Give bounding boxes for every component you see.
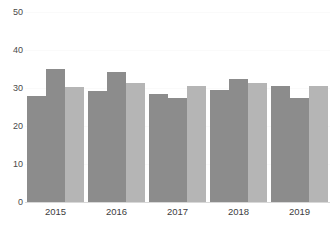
bar-group-2017 bbox=[147, 12, 208, 202]
bar-2018-series-2[interactable] bbox=[229, 79, 248, 202]
bar-2019-series-3[interactable] bbox=[309, 86, 328, 202]
y-tick-label-40: 40 bbox=[1, 46, 23, 55]
x-tick-label-2016: 2016 bbox=[86, 205, 147, 223]
bar-group-2019 bbox=[269, 12, 330, 202]
bar-group-2015 bbox=[25, 12, 86, 202]
bar-2019-series-2[interactable] bbox=[290, 98, 309, 203]
bar-2017-series-3[interactable] bbox=[187, 86, 206, 202]
bar-2015-series-1[interactable] bbox=[27, 96, 46, 202]
x-tick-label-2019: 2019 bbox=[269, 205, 330, 223]
bar-2015-series-2[interactable] bbox=[46, 69, 65, 202]
bar-group-2016 bbox=[86, 12, 147, 202]
bar-chart: 50 40 30 20 10 0 bbox=[0, 0, 335, 237]
y-tick-label-30: 30 bbox=[1, 84, 23, 93]
x-tick-label-2017: 2017 bbox=[147, 205, 208, 223]
bar-2018-series-3[interactable] bbox=[248, 83, 267, 202]
bar-2016-series-3[interactable] bbox=[126, 83, 145, 202]
bar-groups bbox=[25, 12, 330, 202]
bar-2017-series-2[interactable] bbox=[168, 98, 187, 202]
bar-2016-series-1[interactable] bbox=[88, 91, 107, 202]
bar-group-2018 bbox=[208, 12, 269, 202]
bar-2016-series-2[interactable] bbox=[107, 72, 126, 202]
bar-2019-series-1[interactable] bbox=[271, 86, 290, 202]
x-tick-label-2015: 2015 bbox=[25, 205, 86, 223]
bar-2015-series-3[interactable] bbox=[65, 87, 84, 202]
y-tick-label-0: 0 bbox=[1, 198, 23, 207]
y-axis: 50 40 30 20 10 0 bbox=[0, 0, 23, 237]
y-tick-label-10: 10 bbox=[1, 160, 23, 169]
y-tick-label-50: 50 bbox=[1, 8, 23, 17]
bar-2017-series-1[interactable] bbox=[149, 94, 168, 202]
bar-2018-series-1[interactable] bbox=[210, 90, 229, 202]
x-axis: 2015 2016 2017 2018 2019 bbox=[25, 205, 330, 223]
x-axis-line bbox=[25, 202, 330, 203]
y-tick-label-20: 20 bbox=[1, 122, 23, 131]
x-tick-label-2018: 2018 bbox=[208, 205, 269, 223]
